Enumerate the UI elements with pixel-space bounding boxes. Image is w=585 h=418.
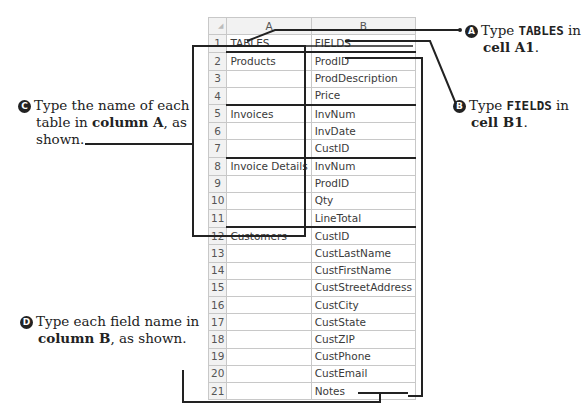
row-header[interactable]: 11: [209, 210, 227, 228]
table-row: 12CustomersCustID: [209, 227, 416, 245]
row-header[interactable]: 8: [209, 158, 227, 176]
row-header[interactable]: 16: [209, 297, 227, 314]
table-row: 13CustLastName: [209, 245, 416, 262]
row-header[interactable]: 12: [209, 227, 227, 245]
row-header[interactable]: 9: [209, 175, 227, 192]
row-header[interactable]: 5: [209, 105, 227, 123]
cell-b18[interactable]: CustZIP: [311, 331, 415, 348]
cell-a16[interactable]: [227, 297, 311, 314]
row-header[interactable]: 20: [209, 365, 227, 382]
cell-b10[interactable]: Qty: [311, 192, 415, 209]
cell-b20[interactable]: CustEmail: [311, 365, 415, 382]
callout-b: BType FIELDS in cell B1.: [453, 97, 569, 131]
table-row: 19CustPhone: [209, 348, 416, 365]
row-header[interactable]: 17: [209, 314, 227, 331]
row-header[interactable]: 4: [209, 87, 227, 105]
callout-d: DType each field name in column B, as sh…: [20, 313, 199, 347]
cell-a2[interactable]: Products: [227, 52, 311, 70]
column-header-a[interactable]: A: [227, 18, 311, 35]
table-row: 18CustZIP: [209, 331, 416, 348]
cell-b7[interactable]: CustID: [311, 140, 415, 158]
cell-b4[interactable]: Price: [311, 87, 415, 105]
table-row: 5InvoicesInvNum: [209, 105, 416, 123]
cell-a13[interactable]: [227, 245, 311, 262]
table-row: 8Invoice DetailsInvNum: [209, 158, 416, 176]
cell-a15[interactable]: [227, 279, 311, 296]
table-row: 14CustFirstName: [209, 262, 416, 279]
cell-a18[interactable]: [227, 331, 311, 348]
cell-a20[interactable]: [227, 365, 311, 382]
cell-a8[interactable]: Invoice Details: [227, 158, 311, 176]
table-row: 9ProdID: [209, 175, 416, 192]
select-all-corner[interactable]: ◢: [209, 18, 227, 35]
cell-a10[interactable]: [227, 192, 311, 209]
cell-b16[interactable]: CustCity: [311, 297, 415, 314]
table-row: 21Notes: [209, 382, 416, 399]
cell-b1[interactable]: FIELDS: [311, 35, 415, 53]
cell-a17[interactable]: [227, 314, 311, 331]
cell-b5[interactable]: InvNum: [311, 105, 415, 123]
row-header[interactable]: 19: [209, 348, 227, 365]
row-header[interactable]: 6: [209, 123, 227, 140]
table-row: 3ProdDescription: [209, 70, 416, 87]
cell-a5[interactable]: Invoices: [227, 105, 311, 123]
badge-d-icon: D: [20, 316, 33, 329]
cell-a7[interactable]: [227, 140, 311, 158]
cell-b9[interactable]: ProdID: [311, 175, 415, 192]
table-row: 7CustID: [209, 140, 416, 158]
badge-b-icon: B: [453, 100, 466, 113]
table-row: 11LineTotal: [209, 210, 416, 228]
cell-a1[interactable]: TABLES: [227, 35, 311, 53]
row-header[interactable]: 18: [209, 331, 227, 348]
cell-b6[interactable]: InvDate: [311, 123, 415, 140]
table-row: 17CustState: [209, 314, 416, 331]
cell-b19[interactable]: CustPhone: [311, 348, 415, 365]
table-row: 16CustCity: [209, 297, 416, 314]
cell-a14[interactable]: [227, 262, 311, 279]
row-header[interactable]: 1: [209, 35, 227, 53]
cell-b2[interactable]: ProdID: [311, 52, 415, 70]
badge-a-icon: A: [465, 25, 478, 38]
cell-a11[interactable]: [227, 210, 311, 228]
callout-a: AType TABLES in cell A1.: [465, 22, 581, 56]
callout-c: CType the name of each table in column A…: [18, 97, 190, 148]
row-header[interactable]: 14: [209, 262, 227, 279]
row-header[interactable]: 7: [209, 140, 227, 158]
table-row: 20CustEmail: [209, 365, 416, 382]
cell-b11[interactable]: LineTotal: [311, 210, 415, 228]
cell-b13[interactable]: CustLastName: [311, 245, 415, 262]
row-header[interactable]: 21: [209, 382, 227, 399]
cell-b14[interactable]: CustFirstName: [311, 262, 415, 279]
table-row: 1TABLESFIELDS: [209, 35, 416, 53]
cell-b8[interactable]: InvNum: [311, 158, 415, 176]
cell-a12[interactable]: Customers: [227, 227, 311, 245]
table-row: 10Qty: [209, 192, 416, 209]
cell-b12[interactable]: CustID: [311, 227, 415, 245]
table-row: 6InvDate: [209, 123, 416, 140]
cell-a4[interactable]: [227, 87, 311, 105]
table-row: 4Price: [209, 87, 416, 105]
cell-a21[interactable]: [227, 382, 311, 399]
table-row: 2ProductsProdID: [209, 52, 416, 70]
code-fields: FIELDS: [507, 98, 552, 113]
cell-a3[interactable]: [227, 70, 311, 87]
row-header[interactable]: 13: [209, 245, 227, 262]
column-header-b[interactable]: B: [311, 18, 415, 35]
table-row: 15CustStreetAddress: [209, 279, 416, 296]
row-header[interactable]: 10: [209, 192, 227, 209]
row-header[interactable]: 3: [209, 70, 227, 87]
column-header-row: ◢ A B: [209, 18, 416, 35]
row-header[interactable]: 2: [209, 52, 227, 70]
cell-b21[interactable]: Notes: [311, 382, 415, 399]
cell-b17[interactable]: CustState: [311, 314, 415, 331]
code-tables: TABLES: [519, 23, 564, 38]
cell-a19[interactable]: [227, 348, 311, 365]
row-header[interactable]: 15: [209, 279, 227, 296]
cell-a9[interactable]: [227, 175, 311, 192]
cell-b15[interactable]: CustStreetAddress: [311, 279, 415, 296]
badge-c-icon: C: [18, 100, 31, 113]
cell-a6[interactable]: [227, 123, 311, 140]
cell-b3[interactable]: ProdDescription: [311, 70, 415, 87]
spreadsheet: ◢ A B 1TABLESFIELDS2ProductsProdID3ProdD…: [208, 17, 416, 400]
